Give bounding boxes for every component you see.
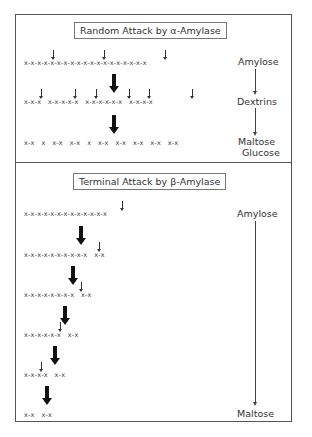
reaction-arrow-icon (112, 74, 116, 87)
cleavage-arrow-icon (104, 50, 105, 58)
cleavage-arrow-icon (149, 89, 150, 97)
reaction-arrow-icon (79, 226, 83, 239)
dextrins-chain: x-x-x x-x-x-x-x x-x-x-x-x-x x-x-x-x (24, 98, 153, 106)
dextrins-label: Dextrins (237, 96, 277, 107)
cleavage-arrow-icon (60, 322, 61, 330)
beta-chain-4: x-x-x-x-x-x x-x (24, 331, 78, 339)
beta-chain-6: x-x x-x (24, 411, 52, 419)
maltose-label-beta: Maltose (237, 408, 274, 419)
cleavage-arrow-icon (96, 89, 97, 97)
amylose-label: Amylose (238, 56, 279, 67)
maltose-label: Maltose (238, 136, 275, 147)
maltose-glucose-chain: x-x x x-x x-x x x-x x-x x-x x-x x-x (24, 139, 178, 147)
beta-chain-2: x-x-x-x-x-x-x-x-x-x x-x (24, 251, 105, 259)
beta-chain-3: x-x-x-x-x-x-x-x x-x (24, 291, 92, 299)
amylose-chain: x-x-x-x-x-x-x-x-x-x-x-x-x-x-x-x-x-x-x (24, 59, 147, 67)
cleavage-arrow-icon (122, 201, 123, 209)
terminal-attack-title: Terminal Attack by β-Amylase (73, 173, 226, 190)
reaction-arrow-icon (63, 306, 67, 319)
cleavage-arrow-icon (99, 242, 100, 250)
cleavage-arrow-icon (165, 50, 166, 58)
glucose-label: Glucose (242, 147, 280, 158)
cleavage-arrow-icon (53, 50, 54, 58)
reaction-arrow-icon (45, 386, 49, 399)
progression-arrow-icon (255, 108, 256, 134)
progression-arrow-icon (255, 221, 256, 404)
cleavage-arrow-icon (41, 89, 42, 97)
reaction-arrow-icon (53, 346, 57, 359)
cleavage-arrow-icon (41, 362, 42, 370)
beta-chain-1: x-x-x-x-x-x-x-x-x-x-x-x-x (24, 210, 107, 218)
random-attack-title: Random Attack by α-Amylase (74, 22, 227, 39)
cleavage-arrow-icon (75, 89, 76, 97)
cleavage-arrow-icon (81, 282, 82, 290)
amylose-label-beta: Amylose (237, 208, 278, 219)
section-divider (15, 162, 292, 163)
cleavage-arrow-icon (129, 89, 130, 97)
reaction-arrow-icon (71, 266, 75, 279)
cleavage-arrow-icon (192, 89, 193, 97)
beta-chain-5: x-x-x-x x-x (24, 371, 65, 379)
reaction-arrow-icon (112, 115, 116, 128)
progression-arrow-icon (255, 69, 256, 93)
